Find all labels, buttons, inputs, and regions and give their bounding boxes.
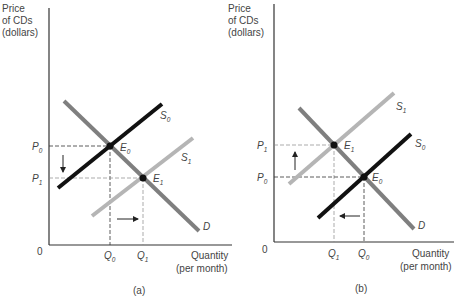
- panel-a: Price of CDs (dollars) S0 S1 D E0 E1 P0 …: [2, 3, 232, 296]
- label-s1: S1: [396, 101, 407, 114]
- label-p1: P1: [257, 140, 268, 153]
- y-axis-label-line1: Price: [228, 3, 251, 14]
- equilibrium-point-e1: [140, 175, 147, 182]
- y-axis-label-line3: (dollars): [228, 27, 264, 38]
- panel-caption-a: (a): [133, 285, 145, 296]
- label-e1: E1: [153, 173, 164, 186]
- label-q1: Q1: [137, 250, 149, 263]
- x-axis-label-line1: Quantity: [191, 250, 228, 261]
- supply-demand-diagram: Price of CDs (dollars) S0 S1 D E0 E1 P0 …: [0, 0, 454, 302]
- y-axis-label-line3: (dollars): [2, 27, 38, 38]
- y-axis-label-line2: of CDs: [2, 15, 33, 26]
- equilibrium-point-e1: [331, 142, 338, 149]
- label-p1: P1: [32, 173, 43, 186]
- x-axis-label-line2: (per month): [400, 261, 452, 272]
- x-axis-label-line1: Quantity: [412, 248, 449, 259]
- label-e1: E1: [344, 140, 355, 153]
- label-s0: S0: [415, 138, 426, 151]
- panel-caption-b: (b): [355, 283, 367, 294]
- label-p0: P0: [32, 141, 43, 154]
- label-e0: E0: [120, 142, 131, 155]
- label-p0: P0: [257, 172, 268, 185]
- label-q0: Q0: [104, 250, 116, 263]
- label-d: D: [418, 220, 425, 231]
- label-d: D: [203, 221, 210, 232]
- equilibrium-point-e0: [107, 143, 114, 150]
- x-axis-label-line2: (per month): [176, 263, 228, 274]
- label-e0: E0: [372, 172, 383, 185]
- equilibrium-point-e0: [361, 174, 368, 181]
- label-q0: Q0: [358, 248, 370, 261]
- origin-label: 0: [37, 246, 43, 257]
- label-q1: Q1: [328, 248, 340, 261]
- label-s0: S0: [160, 110, 171, 123]
- label-s1: S1: [181, 152, 192, 165]
- panel-b: Price of CDs (dollars) S1 S0 D E1 E0 P1 …: [228, 3, 454, 294]
- y-axis-label-line1: Price: [2, 3, 25, 14]
- supply-curve-s1: [289, 93, 394, 184]
- origin-label: 0: [262, 244, 268, 255]
- y-axis-label-line2: of CDs: [228, 15, 259, 26]
